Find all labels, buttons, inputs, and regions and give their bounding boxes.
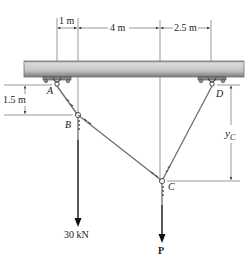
cable-BC xyxy=(78,115,161,180)
dim-label-4m: 4 m xyxy=(110,23,125,33)
cable-CD xyxy=(163,86,212,179)
point-label-A: A xyxy=(47,86,53,96)
dim-label-yC: yC xyxy=(225,128,235,142)
point-label-B: B xyxy=(65,120,71,130)
ceiling-beam xyxy=(24,61,244,77)
yC-sub: C xyxy=(230,133,235,142)
point-label-C: C xyxy=(168,182,175,192)
cables xyxy=(57,86,212,205)
load-arrow-P xyxy=(159,205,166,243)
load-label-30kN: 30 kN xyxy=(64,230,89,240)
top-dimension-lines xyxy=(57,18,211,178)
point-label-D: D xyxy=(216,89,223,99)
dim-label-1m: 1 m xyxy=(59,16,74,26)
cable-system-diagram xyxy=(0,0,252,267)
dim-label-1-5m: 1.5 m xyxy=(3,95,26,105)
load-label-P: P xyxy=(158,246,164,256)
dim-label-2-5m: 2.5 m xyxy=(174,23,197,33)
load-arrow-30kN xyxy=(75,140,82,227)
